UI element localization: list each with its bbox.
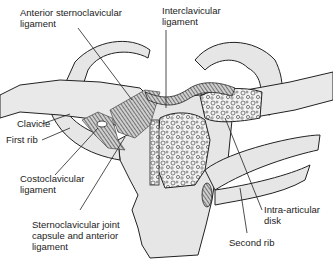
label-second-rib: Second rib	[229, 237, 274, 248]
label-costoclavicular-ligament: Costoclavicular ligament	[20, 173, 84, 195]
label-first-rib: First rib	[6, 134, 38, 145]
label-intra-articular-disk: Intra-articular disk	[264, 204, 320, 226]
label-sternoclavicular-joint-capsule: Sternoclavicular joint capsule and anter…	[32, 219, 120, 252]
label-interclavicular-ligament: Interclavicular ligament	[162, 5, 221, 27]
label-anterior-sternoclavicular-ligament: Anterior sternoclavicular ligament	[20, 7, 122, 29]
label-clavicle: Clavicle	[17, 118, 50, 129]
sternoclavicular-joint-diagram: Anterior sternoclavicular ligament Inter…	[0, 0, 333, 263]
